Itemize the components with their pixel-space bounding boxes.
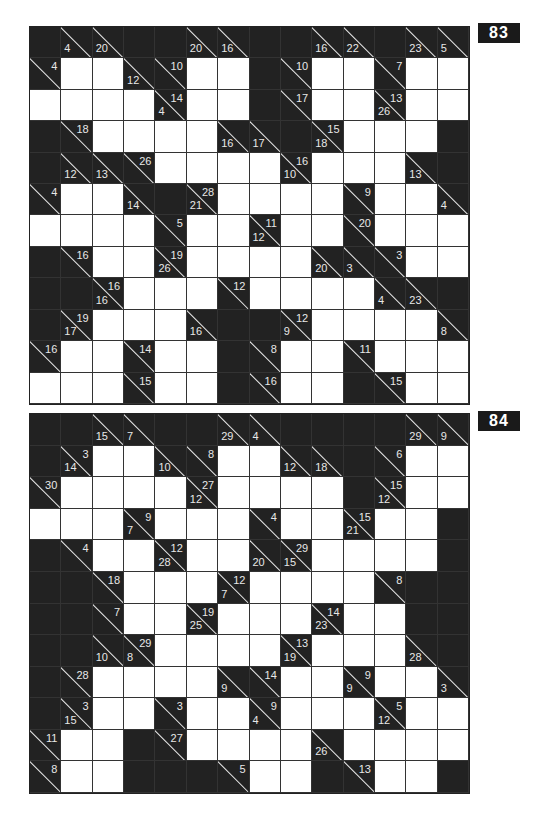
answer-cell[interactable] bbox=[124, 540, 155, 572]
answer-cell[interactable] bbox=[218, 247, 249, 278]
answer-cell[interactable] bbox=[375, 215, 406, 246]
answer-cell[interactable] bbox=[218, 153, 249, 184]
answer-cell[interactable] bbox=[218, 184, 249, 215]
answer-cell[interactable] bbox=[281, 247, 312, 278]
answer-cell[interactable] bbox=[281, 509, 312, 541]
answer-cell[interactable] bbox=[61, 184, 92, 215]
answer-cell[interactable] bbox=[93, 509, 124, 541]
answer-cell[interactable] bbox=[218, 215, 249, 246]
answer-cell[interactable] bbox=[250, 247, 281, 278]
answer-cell[interactable] bbox=[406, 90, 437, 121]
answer-cell[interactable] bbox=[344, 121, 375, 152]
answer-cell[interactable] bbox=[375, 667, 406, 699]
answer-cell[interactable] bbox=[124, 215, 155, 246]
answer-cell[interactable] bbox=[438, 90, 469, 121]
answer-cell[interactable] bbox=[281, 667, 312, 699]
answer-cell[interactable] bbox=[155, 121, 186, 152]
answer-cell[interactable] bbox=[187, 153, 218, 184]
answer-cell[interactable] bbox=[281, 341, 312, 372]
answer-cell[interactable] bbox=[406, 121, 437, 152]
answer-cell[interactable] bbox=[250, 761, 281, 793]
answer-cell[interactable] bbox=[187, 247, 218, 278]
answer-cell[interactable] bbox=[155, 509, 186, 541]
answer-cell[interactable] bbox=[312, 373, 343, 404]
answer-cell[interactable] bbox=[281, 698, 312, 730]
answer-cell[interactable] bbox=[187, 509, 218, 541]
answer-cell[interactable] bbox=[312, 90, 343, 121]
answer-cell[interactable] bbox=[30, 373, 61, 404]
answer-cell[interactable] bbox=[250, 184, 281, 215]
answer-cell[interactable] bbox=[124, 310, 155, 341]
answer-cell[interactable] bbox=[312, 184, 343, 215]
answer-cell[interactable] bbox=[375, 635, 406, 667]
answer-cell[interactable] bbox=[312, 153, 343, 184]
answer-cell[interactable] bbox=[250, 446, 281, 478]
answer-cell[interactable] bbox=[93, 446, 124, 478]
answer-cell[interactable] bbox=[30, 215, 61, 246]
answer-cell[interactable] bbox=[438, 373, 469, 404]
answer-cell[interactable] bbox=[375, 761, 406, 793]
answer-cell[interactable] bbox=[187, 341, 218, 372]
answer-cell[interactable] bbox=[93, 477, 124, 509]
answer-cell[interactable] bbox=[344, 90, 375, 121]
answer-cell[interactable] bbox=[438, 58, 469, 89]
answer-cell[interactable] bbox=[93, 373, 124, 404]
answer-cell[interactable] bbox=[187, 698, 218, 730]
answer-cell[interactable] bbox=[281, 477, 312, 509]
answer-cell[interactable] bbox=[155, 278, 186, 309]
answer-cell[interactable] bbox=[250, 635, 281, 667]
answer-cell[interactable] bbox=[438, 730, 469, 762]
answer-cell[interactable] bbox=[218, 446, 249, 478]
answer-cell[interactable] bbox=[312, 635, 343, 667]
answer-cell[interactable] bbox=[281, 278, 312, 309]
answer-cell[interactable] bbox=[30, 90, 61, 121]
answer-cell[interactable] bbox=[218, 477, 249, 509]
answer-cell[interactable] bbox=[406, 761, 437, 793]
answer-cell[interactable] bbox=[93, 341, 124, 372]
answer-cell[interactable] bbox=[218, 698, 249, 730]
answer-cell[interactable] bbox=[406, 247, 437, 278]
answer-cell[interactable] bbox=[155, 373, 186, 404]
answer-cell[interactable] bbox=[344, 635, 375, 667]
answer-cell[interactable] bbox=[406, 184, 437, 215]
answer-cell[interactable] bbox=[344, 58, 375, 89]
answer-cell[interactable] bbox=[155, 477, 186, 509]
answer-cell[interactable] bbox=[281, 373, 312, 404]
answer-cell[interactable] bbox=[187, 730, 218, 762]
answer-cell[interactable] bbox=[187, 90, 218, 121]
answer-cell[interactable] bbox=[312, 540, 343, 572]
answer-cell[interactable] bbox=[406, 310, 437, 341]
answer-cell[interactable] bbox=[124, 667, 155, 699]
answer-cell[interactable] bbox=[438, 341, 469, 372]
answer-cell[interactable] bbox=[187, 121, 218, 152]
answer-cell[interactable] bbox=[406, 341, 437, 372]
answer-cell[interactable] bbox=[281, 215, 312, 246]
answer-cell[interactable] bbox=[61, 761, 92, 793]
answer-cell[interactable] bbox=[218, 540, 249, 572]
answer-cell[interactable] bbox=[124, 477, 155, 509]
answer-cell[interactable] bbox=[406, 667, 437, 699]
answer-cell[interactable] bbox=[344, 310, 375, 341]
answer-cell[interactable] bbox=[344, 278, 375, 309]
answer-cell[interactable] bbox=[155, 310, 186, 341]
answer-cell[interactable] bbox=[187, 572, 218, 604]
answer-cell[interactable] bbox=[406, 698, 437, 730]
answer-cell[interactable] bbox=[155, 604, 186, 636]
answer-cell[interactable] bbox=[218, 58, 249, 89]
answer-cell[interactable] bbox=[93, 184, 124, 215]
answer-cell[interactable] bbox=[187, 58, 218, 89]
answer-cell[interactable] bbox=[250, 278, 281, 309]
answer-cell[interactable] bbox=[438, 446, 469, 478]
answer-cell[interactable] bbox=[312, 310, 343, 341]
answer-cell[interactable] bbox=[375, 604, 406, 636]
answer-cell[interactable] bbox=[375, 341, 406, 372]
answer-cell[interactable] bbox=[93, 730, 124, 762]
answer-cell[interactable] bbox=[406, 58, 437, 89]
answer-cell[interactable] bbox=[124, 604, 155, 636]
answer-cell[interactable] bbox=[312, 477, 343, 509]
answer-cell[interactable] bbox=[124, 446, 155, 478]
answer-cell[interactable] bbox=[124, 572, 155, 604]
answer-cell[interactable] bbox=[155, 635, 186, 667]
answer-cell[interactable] bbox=[312, 341, 343, 372]
answer-cell[interactable] bbox=[61, 373, 92, 404]
